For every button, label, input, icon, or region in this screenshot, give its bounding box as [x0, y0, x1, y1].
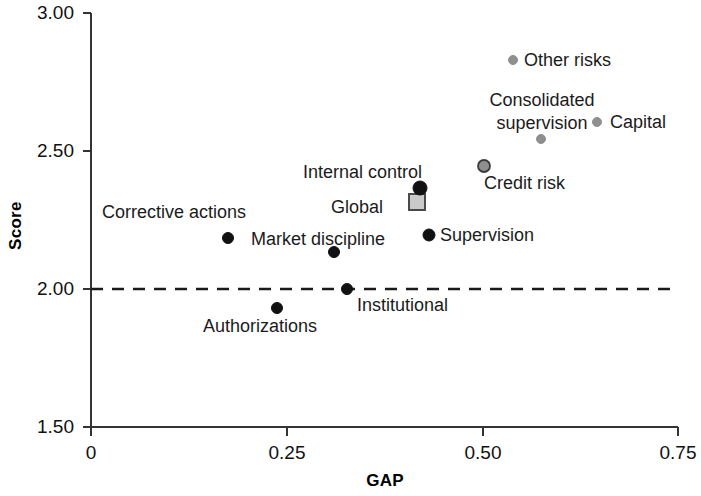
marker-consolidated-supervision	[537, 135, 546, 144]
y-tick-label-2-50: 2.50	[8, 140, 74, 162]
marker-corrective-actions	[223, 233, 234, 244]
marker-credit-risk	[478, 160, 490, 172]
marker-institutional	[342, 284, 353, 295]
marker-supervision	[423, 229, 435, 241]
x-tick-label-0-75: 0.75	[643, 442, 701, 464]
point-label-institutional: Institutional	[357, 294, 448, 316]
point-label-consolidated-supervision-line2: supervision	[466, 112, 618, 134]
point-label-consolidated-supervision-line1: Consolidated	[466, 89, 618, 111]
marker-internal-control	[413, 181, 427, 195]
point-label-capital: Capital	[610, 111, 666, 133]
point-label-internal-control: Internal control	[303, 161, 422, 183]
point-label-other-risks: Other risks	[524, 49, 611, 71]
y-axis-title: Score	[6, 201, 26, 250]
x-axis-ticks	[91, 427, 678, 436]
x-tick-label-0: 0	[56, 442, 126, 464]
x-tick-label-0-25: 0.25	[252, 442, 322, 464]
point-label-authorizations: Authorizations	[203, 315, 317, 337]
y-axis-ticks	[83, 13, 91, 427]
y-tick-label-2-00: 2.00	[8, 278, 74, 300]
y-tick-label-1-50: 1.50	[8, 416, 74, 438]
marker-global	[409, 194, 425, 210]
marker-authorizations	[272, 303, 283, 314]
point-label-supervision: Supervision	[440, 224, 534, 246]
x-axis-title: GAP	[345, 471, 425, 491]
point-label-global: Global	[331, 196, 383, 218]
point-label-credit-risk: Credit risk	[484, 172, 565, 194]
y-tick-label-3-00: 3.00	[8, 2, 74, 24]
x-tick-label-0-50: 0.50	[448, 442, 518, 464]
point-label-corrective-actions: Corrective actions	[102, 201, 246, 223]
point-label-market-discipline: Market discipline	[251, 228, 385, 250]
marker-other-risks	[509, 56, 518, 65]
